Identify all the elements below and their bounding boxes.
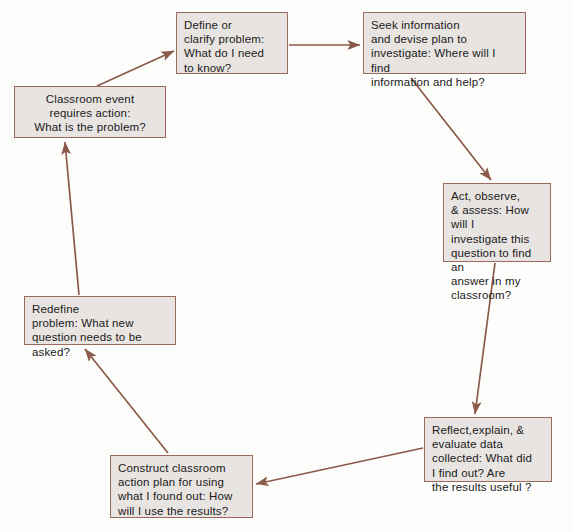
node-seek-information: Seek information and devise plan to inve… — [363, 12, 526, 74]
node-reflect-explain-evaluate: Reflect,explain, & evaluate data collect… — [424, 417, 552, 482]
arrow-seek-to-act — [411, 78, 491, 180]
arrow-construct-to-redefine — [85, 349, 168, 453]
node-redefine-problem: Redefine problem: What new question need… — [24, 296, 176, 345]
node-construct-action-plan: Construct classroom action plan for usin… — [110, 455, 253, 518]
node-classroom-event: Classroom event requires action: What is… — [14, 86, 166, 138]
action-research-cycle-diagram: Classroom event requires action: What is… — [0, 0, 572, 532]
node-define-clarify-problem: Define or clarify problem: What do I nee… — [176, 12, 288, 74]
node-act-observe-assess: Act, observe, & assess: How will I inves… — [443, 183, 551, 262]
arrow-redefine-to-classroom — [65, 142, 79, 295]
arrow-classroom-to-define — [97, 51, 174, 86]
arrow-reflect-to-construct — [256, 448, 423, 484]
